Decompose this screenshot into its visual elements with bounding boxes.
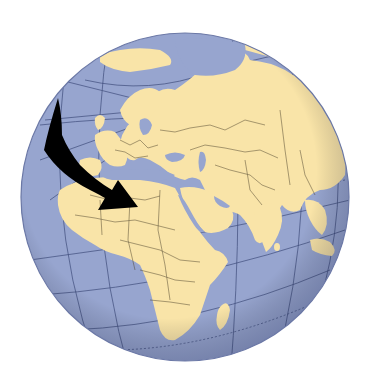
globe-svg [0, 0, 368, 388]
globe-illustration: Globe centered on Europe, Africa and Asi… [0, 0, 368, 388]
globe-shading [21, 33, 349, 361]
